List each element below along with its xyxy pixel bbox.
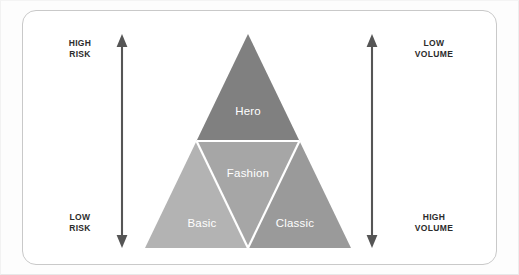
diagram-canvas: HIGH RISK LOW RISK LOW VOLUME HIGH VOLUM… bbox=[0, 0, 519, 275]
risk-axis-double-arrow-icon bbox=[113, 33, 131, 249]
volume-axis-double-arrow-icon bbox=[363, 33, 381, 249]
product-pyramid: Hero Fashion Basic Classic bbox=[130, 28, 365, 256]
axis-label-high-risk: HIGH RISK bbox=[52, 38, 108, 60]
axis-label-low-volume: LOW VOLUME bbox=[398, 38, 470, 60]
axis-label-high-volume: HIGH VOLUME bbox=[398, 212, 470, 234]
axis-label-low-risk: LOW RISK bbox=[52, 212, 108, 234]
pyramid-segment-hero bbox=[197, 34, 300, 141]
pyramid-label-classic: Classic bbox=[276, 217, 315, 229]
pyramid-label-basic: Basic bbox=[187, 217, 216, 229]
pyramid-label-hero: Hero bbox=[235, 105, 261, 117]
pyramid-label-fashion: Fashion bbox=[227, 167, 269, 179]
